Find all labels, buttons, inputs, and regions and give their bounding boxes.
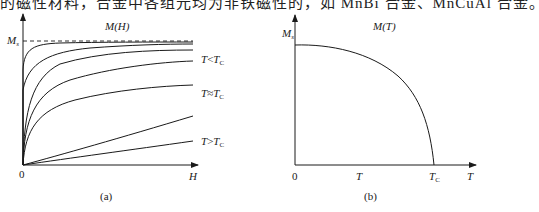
- annotation-t-near-tc: T≈TC: [201, 87, 224, 101]
- panel-b-origin: 0: [292, 170, 298, 182]
- annotation-t-above-tc: T>TC: [201, 135, 224, 149]
- panel-b-tick-t: T: [356, 170, 363, 182]
- panel-b-mt-chart: M(T) Ms 0 T TC T (b): [281, 15, 476, 203]
- panel-a-origin: 0: [19, 168, 25, 180]
- panel-a-caption: (a): [100, 190, 113, 203]
- mh-curve-7: [23, 141, 193, 165]
- panel-a-ylabel-ms: Ms: [6, 34, 19, 48]
- panel-a-xlabel: H: [188, 170, 198, 182]
- panel-b-xlabel: T: [467, 170, 474, 182]
- mh-curve-6: [23, 116, 193, 165]
- panel-a-title: M(H): [104, 20, 130, 33]
- panel-b-title: M(T): [372, 20, 396, 33]
- panel-a-mh-chart: M(H) Ms 0 H T<TC T≈TC T>TC (a): [6, 14, 224, 203]
- mh-curve-4: [23, 61, 193, 165]
- mt-curve: [295, 45, 434, 165]
- mh-curve-1: [23, 42, 193, 165]
- panel-b-ylabel-ms: Ms: [281, 27, 294, 41]
- mh-curves: [23, 42, 193, 165]
- panel-b-caption: (b): [364, 190, 377, 203]
- annotation-t-below-tc: T<TC: [201, 53, 224, 67]
- panel-b-tick-tc: TC: [429, 170, 440, 184]
- mh-curve-3: [23, 50, 193, 165]
